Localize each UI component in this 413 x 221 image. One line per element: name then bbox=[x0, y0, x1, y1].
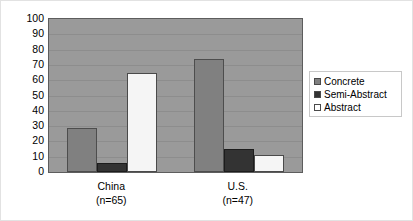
legend-label: Concrete bbox=[324, 76, 365, 87]
y-tick-label-20: 20 bbox=[1, 135, 44, 146]
y-tick-label-70: 70 bbox=[1, 58, 44, 69]
bar-china-abstract bbox=[127, 73, 157, 172]
gridline-80 bbox=[49, 50, 302, 51]
legend-swatch-icon bbox=[314, 104, 321, 111]
bar-china-concrete bbox=[67, 128, 97, 172]
legend-item-concrete[interactable]: Concrete bbox=[314, 75, 398, 87]
legend-label: Abstract bbox=[324, 102, 361, 113]
bar-china-semi-abstract bbox=[97, 163, 127, 172]
bar-u-s-abstract bbox=[254, 155, 284, 172]
gridline-70 bbox=[49, 65, 302, 66]
legend-item-semi-abstract[interactable]: Semi-Abstract bbox=[314, 88, 398, 100]
gridline-60 bbox=[49, 80, 302, 81]
legend-swatch-icon bbox=[314, 91, 321, 98]
x-category-name: China bbox=[48, 179, 175, 193]
x-category-u-s: U.S.(n=47) bbox=[175, 179, 302, 207]
y-tick-label-30: 30 bbox=[1, 120, 44, 131]
x-category-name: U.S. bbox=[175, 179, 302, 193]
legend-item-abstract[interactable]: Abstract bbox=[314, 101, 398, 113]
gridline-50 bbox=[49, 96, 302, 97]
x-category-sublabel: (n=65) bbox=[48, 193, 175, 207]
y-axis: 1009080706050403020100 bbox=[1, 11, 44, 180]
x-category-china: China(n=65) bbox=[48, 179, 175, 207]
legend-label: Semi-Abstract bbox=[324, 89, 387, 100]
y-tick-label-60: 60 bbox=[1, 74, 44, 85]
gridline-40 bbox=[49, 111, 302, 112]
y-tick-label-50: 50 bbox=[1, 89, 44, 100]
bar-chart-figure: 1009080706050403020100 China(n=65)U.S.(n… bbox=[0, 0, 413, 221]
y-tick-label-0: 0 bbox=[1, 166, 44, 177]
y-tick-label-10: 10 bbox=[1, 150, 44, 161]
bar-u-s-semi-abstract bbox=[224, 149, 254, 172]
y-tick-label-40: 40 bbox=[1, 104, 44, 115]
gridline-90 bbox=[49, 34, 302, 35]
x-category-sublabel: (n=47) bbox=[175, 193, 302, 207]
chart-legend: ConcreteSemi-AbstractAbstract bbox=[309, 71, 402, 117]
bar-u-s-concrete bbox=[194, 59, 224, 172]
y-tick-label-80: 80 bbox=[1, 43, 44, 54]
y-tick-label-90: 90 bbox=[1, 28, 44, 39]
y-tick-label-100: 100 bbox=[1, 13, 44, 24]
legend-swatch-icon bbox=[314, 78, 321, 85]
plot-area bbox=[48, 18, 303, 173]
